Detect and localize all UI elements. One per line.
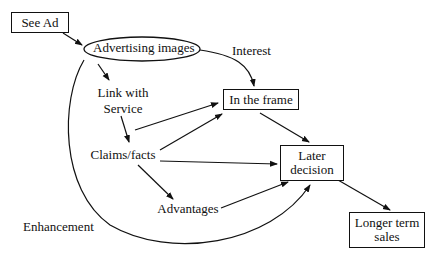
node-longer-term-sales-line1: Longer term — [355, 216, 420, 230]
edge-frame-later — [260, 113, 309, 142]
edge-claims-later — [160, 161, 277, 164]
node-in-the-frame-label: In the frame — [229, 93, 293, 107]
node-later-decision: Later decision — [280, 145, 344, 181]
node-advertising-images: Advertising images — [93, 41, 193, 55]
edge-claims-advantages — [138, 165, 173, 199]
node-link-with-service-line1: Link with — [88, 86, 158, 100]
node-see-ad: See Ad — [11, 12, 69, 33]
node-longer-term-sales-line2: sales — [374, 230, 399, 244]
edge-advimages-link — [98, 64, 109, 80]
node-later-decision-line1: Later — [298, 149, 325, 163]
node-longer-term-sales: Longer term sales — [349, 212, 425, 248]
node-link-with-service-line2: Service — [88, 102, 158, 116]
node-advantages: Advantages — [156, 202, 220, 216]
node-later-decision-line2: decision — [290, 163, 333, 177]
edge-later-sales — [338, 180, 390, 210]
node-link-with-service: Link with Service — [88, 86, 158, 116]
edge-label-interest: Interest — [232, 44, 271, 58]
edge-link-claims — [121, 116, 129, 142]
edge-seead-advimages — [63, 33, 82, 45]
edge-advantages-later — [221, 182, 288, 208]
node-see-ad-label: See Ad — [21, 16, 58, 30]
edge-label-enhancement: Enhancement — [23, 220, 94, 234]
node-claims-facts: Claims/facts — [89, 148, 157, 162]
node-in-the-frame: In the frame — [223, 89, 299, 110]
